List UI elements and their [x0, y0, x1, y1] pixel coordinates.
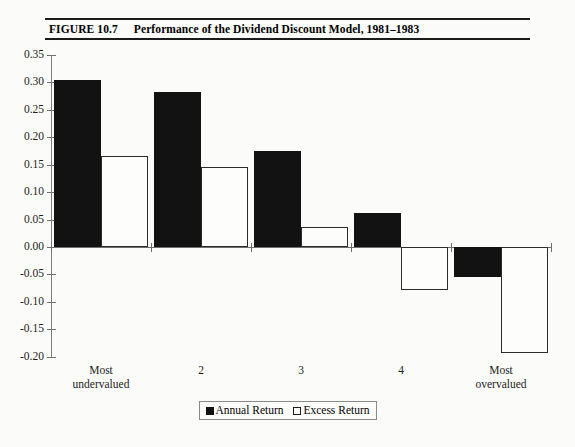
figure-container: FIGURE 10.7 Performance of the Dividend … [0, 0, 575, 447]
y-axis-line [51, 55, 52, 358]
y-axis-tick-label: -0.20 [4, 351, 44, 363]
bar-excess-return [201, 167, 248, 247]
bar-annual-return [154, 92, 201, 247]
legend-entry-excess-return: Excess Return [293, 403, 369, 417]
y-axis-tick-label: 0.35 [4, 49, 44, 61]
y-axis-tick-label: 0.10 [4, 186, 44, 198]
bar-annual-return [454, 247, 501, 277]
x-axis-tick-mark [51, 243, 52, 252]
bar-excess-return [101, 156, 148, 247]
legend-label-annual: Annual Return [215, 404, 283, 416]
x-axis-tick-mark [151, 243, 152, 252]
x-axis-tick-mark [351, 243, 352, 252]
legend-swatch-annual-icon [205, 407, 213, 415]
bar-excess-return [501, 247, 548, 353]
y-axis-tick-label: -0.10 [4, 296, 44, 308]
y-axis-tick-label: 0.00 [4, 241, 44, 253]
y-axis-tick-label: -0.15 [4, 323, 44, 335]
y-axis-labels: 0.350.300.250.200.150.100.050.00-0.05-0.… [0, 0, 44, 447]
x-axis-category-label: 2 [151, 364, 251, 378]
bar-excess-return [301, 227, 348, 247]
bar-annual-return [254, 151, 301, 247]
legend-label-excess: Excess Return [303, 404, 369, 416]
y-axis-tick-label: 0.05 [4, 214, 44, 226]
x-axis-category-label: Mostundervalued [51, 364, 151, 391]
legend-entry-annual-return: Annual Return [205, 403, 283, 417]
chart-plot-area: 0.350.300.250.200.150.100.050.00-0.05-0.… [0, 0, 575, 447]
x-axis-tick-mark [251, 243, 252, 252]
x-axis-tick-mark [551, 243, 552, 252]
y-axis-tick-label: 0.25 [4, 104, 44, 116]
bar-annual-return [54, 80, 101, 247]
y-axis-tick-label: -0.05 [4, 268, 44, 280]
x-axis-category-label: 4 [351, 364, 451, 378]
bar-excess-return [401, 247, 448, 290]
x-axis-category-label: 3 [251, 364, 351, 378]
y-axis-tick-label: 0.20 [4, 131, 44, 143]
legend-swatch-excess-icon [293, 407, 301, 415]
y-axis-tick-label: 0.15 [4, 159, 44, 171]
x-axis-category-label: Mostovervalued [451, 364, 551, 391]
x-axis-tick-mark [451, 243, 452, 252]
y-axis-tick-label: 0.30 [4, 76, 44, 88]
chart-legend: Annual Return Excess Return [198, 401, 376, 420]
bar-annual-return [354, 213, 401, 247]
